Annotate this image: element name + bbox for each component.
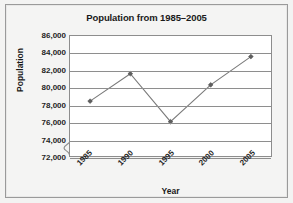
chart-frame: Population from 1985–2005 Population 72,… bbox=[5, 4, 288, 198]
y-axis-tick-label: 72,000 bbox=[24, 153, 66, 162]
y-axis-tick-labels: 72,00074,00076,00078,00080,00082,00084,0… bbox=[20, 35, 66, 157]
x-axis-tick-labels: 19851990199520002005 bbox=[69, 161, 272, 187]
y-axis-tick-label: 86,000 bbox=[24, 31, 66, 40]
plot-area bbox=[69, 35, 272, 157]
chart-figure: Population from 1985–2005 Population 72,… bbox=[0, 0, 293, 203]
y-axis-tick-label: 76,000 bbox=[24, 118, 66, 127]
y-axis-tick-label: 80,000 bbox=[24, 83, 66, 92]
gridline bbox=[70, 106, 271, 107]
y-axis-tick-label: 82,000 bbox=[24, 65, 66, 74]
gridline bbox=[70, 123, 271, 124]
y-axis-tick-label: 84,000 bbox=[24, 48, 66, 57]
y-axis-tick-label: 78,000 bbox=[24, 100, 66, 109]
y-axis-tick-label: 74,000 bbox=[24, 135, 66, 144]
x-axis-title: Year bbox=[69, 186, 272, 196]
chart-title: Population from 1985–2005 bbox=[6, 12, 287, 23]
gridline bbox=[70, 141, 271, 142]
gridline bbox=[70, 71, 271, 72]
gridline bbox=[70, 53, 271, 54]
gridline bbox=[70, 88, 271, 89]
